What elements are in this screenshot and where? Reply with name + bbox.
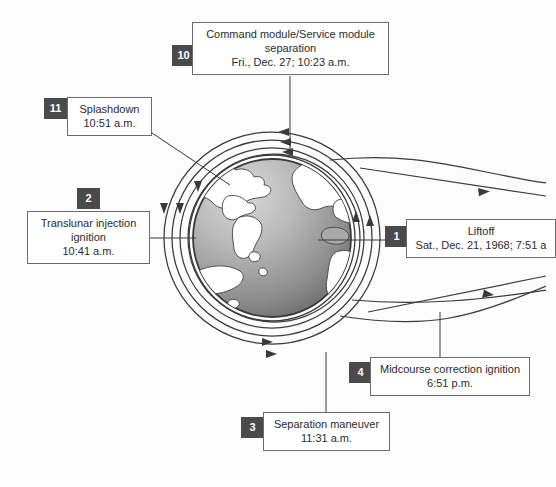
callout-1-line-1: Liftoff bbox=[414, 224, 548, 238]
callout-badge-3[interactable]: 3 bbox=[241, 417, 264, 438]
landmass-florida-gulf bbox=[321, 227, 349, 244]
callout-translunar-injection-ignition[interactable]: Translunar injection ignition 10:41 a.m. bbox=[27, 211, 150, 264]
leader-line-11 bbox=[152, 133, 230, 185]
callout-4-line-1: Midcourse correction ignition bbox=[378, 362, 522, 376]
arrowhead-left-3 bbox=[194, 181, 202, 192]
trajectory-departure-lower bbox=[340, 286, 546, 322]
callout-badge-1[interactable]: 1 bbox=[385, 226, 408, 247]
callout-11-line-1: Splashdown bbox=[75, 102, 144, 116]
callout-10-line-1: Command module/Service module bbox=[200, 27, 381, 41]
callout-3-line-2: 11:31 a.m. bbox=[271, 431, 382, 445]
callout-badge-2[interactable]: 2 bbox=[77, 188, 100, 209]
arrowhead-top-1 bbox=[278, 128, 289, 136]
callout-2-line-3: 10:41 a.m. bbox=[35, 244, 142, 258]
arrowhead-right-2 bbox=[366, 215, 374, 226]
callout-command-service-module-separation[interactable]: Command module/Service module separation… bbox=[192, 22, 389, 75]
callout-separation-maneuver[interactable]: Separation maneuver 11:31 a.m. bbox=[263, 412, 390, 451]
landmass-islands-1 bbox=[249, 252, 260, 262]
callout-3-line-1: Separation maneuver bbox=[271, 417, 382, 431]
arrowhead-bottom-2 bbox=[266, 350, 277, 358]
ray-upper-right bbox=[360, 168, 546, 196]
callout-splashdown[interactable]: Splashdown 10:51 a.m. bbox=[67, 97, 152, 136]
callout-11-line-2: 10:51 a.m. bbox=[75, 116, 144, 130]
callout-midcourse-correction-ignition[interactable]: Midcourse correction ignition 6:51 p.m. bbox=[370, 357, 530, 396]
callout-badge-11[interactable]: 11 bbox=[44, 98, 67, 119]
callout-1-line-2: Sat., Dec. 21, 1968; 7:51 a bbox=[414, 238, 548, 252]
callout-2-line-2: ignition bbox=[35, 230, 142, 244]
callout-10-line-2: separation bbox=[200, 41, 381, 55]
callout-liftoff[interactable]: Liftoff Sat., Dec. 21, 1968; 7:51 a bbox=[406, 219, 556, 258]
callout-badge-4[interactable]: 4 bbox=[349, 362, 372, 383]
arrowhead-bottom-1 bbox=[262, 338, 273, 346]
callout-4-line-2: 6:51 p.m. bbox=[378, 376, 522, 390]
landmass-north-america bbox=[292, 160, 360, 210]
landmass-islands-2 bbox=[259, 268, 268, 276]
arrowhead-top-2 bbox=[280, 138, 291, 146]
callout-10-line-3: Fri., Dec. 27; 10:23 a.m. bbox=[200, 55, 381, 69]
arrowhead-ray-upper-right bbox=[478, 188, 490, 196]
callout-2-line-1: Translunar injection bbox=[35, 216, 142, 230]
